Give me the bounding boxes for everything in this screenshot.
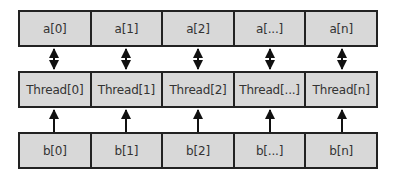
array-b-cell-0: b[0] xyxy=(20,134,92,167)
thread-cell-0: Thread[0] xyxy=(20,73,92,106)
array-b-cell-2: b[2] xyxy=(163,134,235,167)
thread-row: Thread[0] Thread[1] Thread[2] Thread[...… xyxy=(18,71,378,108)
thread-cell-ellipsis: Thread[...] xyxy=(235,73,307,106)
array-a-cell-2: a[2] xyxy=(163,12,235,45)
array-b-row: b[0] b[1] b[2] b[...] b[n] xyxy=(18,132,378,169)
upward-arrows xyxy=(54,110,342,132)
array-b-cell-1: b[1] xyxy=(92,134,164,167)
thread-cell-1: Thread[1] xyxy=(92,73,164,106)
bidirectional-arrows xyxy=(54,49,342,69)
array-a-cell-n: a[n] xyxy=(306,12,376,45)
array-a-cell-1: a[1] xyxy=(92,12,164,45)
thread-cell-n: Thread[n] xyxy=(306,73,376,106)
array-b-cell-ellipsis: b[...] xyxy=(235,134,307,167)
thread-cell-2: Thread[2] xyxy=(163,73,235,106)
array-b-cell-n: b[n] xyxy=(306,134,376,167)
array-a-row: a[0] a[1] a[2] a[...] a[n] xyxy=(18,10,378,47)
array-a-cell-ellipsis: a[...] xyxy=(235,12,307,45)
array-a-cell-0: a[0] xyxy=(20,12,92,45)
